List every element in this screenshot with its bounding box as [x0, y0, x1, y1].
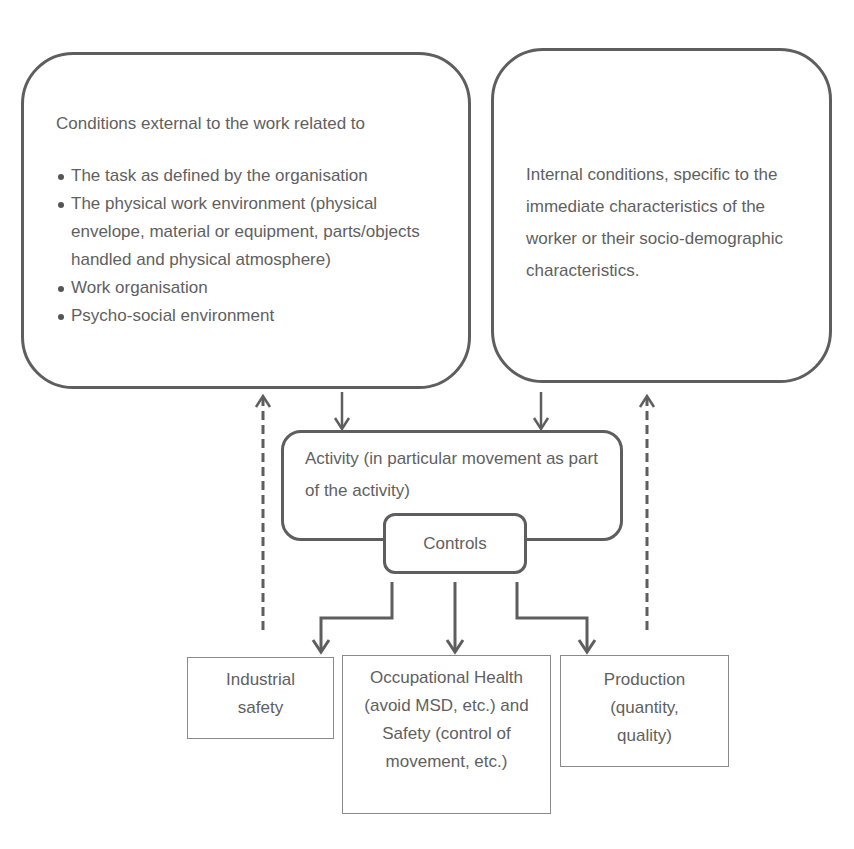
- outcome-label: Production (quantity, quality): [591, 666, 698, 750]
- internal-conditions-box: Internal conditions, specific to the imm…: [491, 48, 832, 383]
- external-conditions-list: The task as defined by the organisation …: [56, 162, 451, 330]
- activity-text: Activity (in particular movement as part…: [305, 443, 605, 507]
- outcome-industrial-safety: Industrial safety: [187, 657, 334, 739]
- controls-box: Controls: [383, 513, 527, 574]
- outcome-production: Production (quantity, quality): [560, 655, 729, 767]
- outcome-label: Industrial safety: [210, 666, 311, 722]
- list-item: The physical work environment (physical …: [56, 190, 451, 274]
- arrow-external-to-activity: [335, 392, 349, 429]
- arrow-to-industrial-safety: [313, 582, 392, 652]
- external-conditions-heading: Conditions external to the work related …: [56, 110, 448, 138]
- arrow-to-production: [517, 582, 595, 652]
- arrow-internal-to-activity: [534, 392, 548, 429]
- controls-label: Controls: [423, 530, 486, 558]
- external-conditions-box: Conditions external to the work related …: [21, 52, 471, 389]
- feedback-arrow-left: [256, 396, 270, 630]
- feedback-arrow-right: [640, 396, 654, 630]
- outcome-label: Occupational Health (avoid MSD, etc.) an…: [353, 664, 540, 776]
- list-item: The task as defined by the organisation: [56, 162, 451, 190]
- list-item: Psycho-social environment: [56, 302, 451, 330]
- outcome-occupational-health: Occupational Health (avoid MSD, etc.) an…: [342, 655, 551, 814]
- list-item: Work organisation: [56, 274, 451, 302]
- arrow-to-occupational-health: [447, 582, 463, 652]
- internal-conditions-text: Internal conditions, specific to the imm…: [526, 159, 796, 287]
